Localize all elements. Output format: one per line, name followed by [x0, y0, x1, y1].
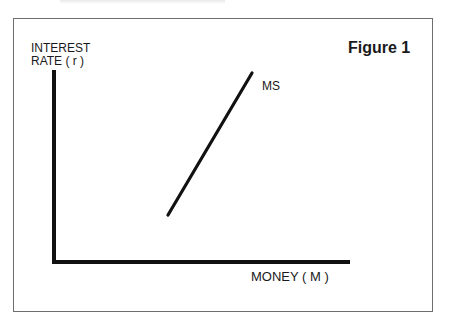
- y-axis-label: INTEREST RATE ( r ): [31, 42, 90, 68]
- ms-curve-label: MS: [262, 80, 280, 93]
- x-axis-label: MONEY ( M ): [251, 270, 329, 283]
- figure-title: Figure 1: [348, 39, 410, 57]
- y-axis-label-line2: RATE ( r ): [31, 55, 90, 68]
- ms-curve: [168, 73, 252, 215]
